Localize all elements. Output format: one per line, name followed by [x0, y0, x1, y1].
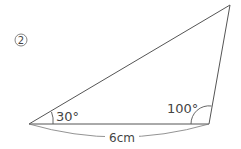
right-angle-label: 100°	[167, 101, 198, 116]
left-angle-arc	[52, 112, 54, 124]
problem-number: 2	[18, 35, 24, 46]
left-angle-label: 30°	[56, 109, 79, 124]
triangle-diagram: 2 30° 100° 6cm	[0, 0, 241, 149]
diagram-canvas: 2 30° 100° 6cm	[0, 0, 241, 149]
base-length-label: 6cm	[109, 131, 135, 145]
triangle	[29, 5, 230, 124]
